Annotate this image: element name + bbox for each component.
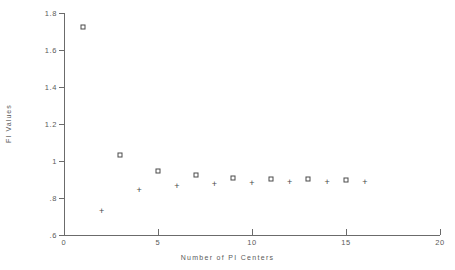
x-tick-mark [64,229,65,235]
y-tick-label: 1.2 [45,120,57,129]
data-point-plus [136,187,143,194]
x-tick-label: 15 [341,238,351,247]
x-tick-label: 20 [435,238,445,247]
data-point-square [80,24,85,29]
y-tick-label: .6 [50,231,57,240]
y-tick-label: 1.6 [45,46,57,55]
y-axis-title: FI Values [5,94,12,154]
data-point-square [306,176,311,181]
x-tick-label: 10 [247,238,257,247]
y-tick-mark [59,235,65,236]
y-tick-mark [59,50,65,51]
x-axis-line [64,235,440,236]
y-tick-mark [59,87,65,88]
x-tick-label: 5 [156,238,161,247]
data-point-square [156,169,161,174]
data-point-square [344,177,349,182]
data-point-square [231,175,236,180]
x-tick-mark [252,229,253,235]
data-point-square [193,173,198,178]
y-tick-mark [59,124,65,125]
y-tick-mark [59,13,65,14]
y-tick-mark [59,161,65,162]
y-tick-mark [59,198,65,199]
y-tick-label: 1.8 [45,9,57,18]
data-point-plus [361,178,368,185]
faint-header-text [95,0,325,9]
data-point-plus [98,207,105,214]
data-point-plus [173,182,180,189]
data-point-plus [286,179,293,186]
x-tick-label: 0 [62,238,67,247]
data-point-square [268,176,273,181]
y-tick-label: 1 [52,157,57,166]
y-tick-label: .8 [50,194,57,203]
data-point-plus [211,181,218,188]
scatter-chart: .6.811.21.41.61.8 05101520 Number of PI … [0,0,455,270]
x-axis-title: Number of PI Centers [0,254,455,261]
x-tick-mark [440,229,441,235]
data-point-square [118,153,123,158]
x-tick-mark [346,229,347,235]
y-tick-label: 1.4 [45,83,57,92]
data-point-plus [324,179,331,186]
x-tick-mark [158,229,159,235]
data-point-plus [249,180,256,187]
